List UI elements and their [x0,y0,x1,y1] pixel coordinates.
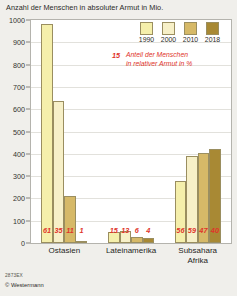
footer: 2873EX © Westermann [5,272,44,289]
y-axis: 01002003004005006007008009001000 [0,0,30,245]
legend-label: 2010 [183,36,198,43]
relative-poverty-value: 4 [146,226,150,235]
y-axis-tick-mark [26,198,30,199]
legend-label: 2000 [161,36,176,43]
relative-poverty-value: 35 [55,226,63,235]
relative-poverty-value: 47 [199,226,207,235]
bar [41,24,53,243]
y-axis-tick-label: 200 [13,194,25,203]
y-axis-tick-label: 700 [13,82,25,91]
relative-poverty-value: 61 [43,226,51,235]
legend-swatch [206,22,219,35]
x-axis-category-label: Lateinamerika [106,246,156,256]
relative-poverty-value: 13 [121,226,129,235]
y-axis-tick-mark [26,86,30,87]
x-axis-category-label: Ostasien [49,246,81,256]
category-label-line-2: Afrika [178,256,217,266]
y-axis-tick-mark [26,176,30,177]
category-label-line-1: Lateinamerika [106,246,156,256]
relative-poverty-value: 56 [176,226,184,235]
y-axis-tick-label: 900 [13,38,25,47]
legend-label: 2018 [205,36,220,43]
y-axis-tick-label: 400 [13,149,25,158]
x-axis-category-label: SubsaharaAfrika [178,246,217,266]
bar [76,241,88,243]
y-axis-tick-label: 800 [13,60,25,69]
y-axis-tick-mark [26,20,30,21]
y-axis-tick-mark [26,109,30,110]
y-axis-tick-label: 600 [13,105,25,114]
y-axis-tick-label: 100 [13,216,25,225]
annotation-line-1: Anteil der Menschen [126,51,188,58]
y-axis-tick-label: 500 [13,127,25,136]
chart-figure: Anzahl der Menschen in absoluter Armut i… [0,0,237,296]
relative-poverty-value: 6 [135,226,139,235]
relative-poverty-value: 59 [188,226,196,235]
category-label-line-1: Subsahara [178,246,217,256]
annotation-relative-poverty: 15 Anteil der Menschen in relativer Armu… [112,51,232,71]
relative-poverty-value: 11 [66,226,74,235]
y-axis-tick-mark [26,153,30,154]
y-axis-tick-mark [26,131,30,132]
relative-poverty-value: 1 [80,226,84,235]
legend: 1990200020102018 [140,22,230,46]
relative-poverty-value: 40 [211,226,219,235]
annotation-text: Anteil der Menschen in relativer Armut i… [126,51,192,68]
y-axis-tick-label: 300 [13,172,25,181]
y-axis-tick-label: 1000 [9,16,25,25]
legend-swatch [162,22,175,35]
legend-swatch [184,22,197,35]
footer-copyright: © Westermann [5,281,44,290]
y-axis-tick-mark [26,243,30,244]
legend-label: 1990 [139,36,154,43]
category-label-line-1: Ostasien [49,246,81,256]
bar [53,101,65,243]
y-axis-tick-mark [26,64,30,65]
footer-code: 2873EX [5,272,44,281]
annotation-line-2: in relativer Armut in % [126,60,192,67]
relative-poverty-values: 613511115136456594740 [31,226,231,240]
relative-poverty-value: 15 [110,226,118,235]
annotation-key: 15 [112,51,120,60]
y-axis-tick-mark [26,42,30,43]
y-axis-tick-mark [26,220,30,221]
legend-swatch [140,22,153,35]
